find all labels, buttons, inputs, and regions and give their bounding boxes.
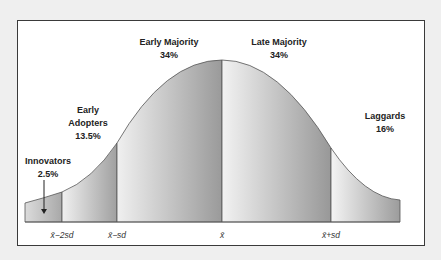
x-tick-mean-minus-2sd: x̄−2sd (51, 230, 74, 240)
x-tick-mean: x̄ (220, 230, 224, 240)
x-tick-mean-plus-sd: x̄+sd (322, 230, 340, 240)
label-innovators: Innovators 2.5% (25, 155, 71, 181)
segment-laggards (331, 148, 400, 222)
x-tick-mean-minus-sd: x̄−sd (108, 230, 126, 240)
segment-early-majority (117, 60, 222, 222)
label-laggards: Laggards 16% (365, 110, 406, 136)
label-late-majority: Late Majority 34% (251, 36, 307, 62)
label-early-adopters: Early Adopters 13.5% (68, 104, 108, 143)
segment-late-majority (222, 60, 331, 222)
label-early-majority: Early Majority 34% (139, 36, 198, 62)
